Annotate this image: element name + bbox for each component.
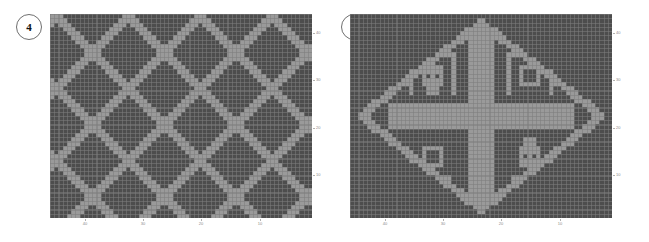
x-axis-tick-label: 30 [441,222,445,226]
y-axis-tick-label: 10 [616,173,620,177]
y-tick-mark [613,80,615,81]
heatmap-plot-5 [350,14,612,218]
y-axis-tick-label: 40 [616,31,620,35]
panel-badge-4: 4 [16,14,42,40]
y-tick-mark [313,175,315,176]
y-axis-tick-label: 30 [616,78,620,82]
x-axis-tick-label: 20 [499,222,503,226]
x-axis-tick-label: 20 [199,222,203,226]
y-axis-tick-label: 10 [316,173,320,177]
heatmap-plot-4 [50,14,312,218]
y-tick-mark [313,128,315,129]
y-tick-mark [613,128,615,129]
x-axis-tick-label: 10 [258,222,262,226]
heatmap-canvas-5 [350,14,612,218]
y-axis-tick-label: 40 [316,31,320,35]
y-axis-tick-label: 30 [316,78,320,82]
x-axis-tick-label: 40 [83,222,87,226]
x-axis-tick-label: 10 [558,222,562,226]
y-tick-mark [613,33,615,34]
y-tick-mark [313,33,315,34]
heatmap-canvas-4 [50,14,312,218]
x-axis-tick-label: 30 [141,222,145,226]
panel-5: 5 4030201040302010 [325,0,649,242]
y-axis-tick-label: 20 [616,126,620,130]
y-tick-mark [313,80,315,81]
y-axis-tick-label: 20 [316,126,320,130]
y-tick-mark [613,175,615,176]
panel-4: 4 4030201040302010 [0,0,324,242]
figure-container: 4 4030201040302010 5 4030201040302010 [0,0,649,242]
x-axis-tick-label: 40 [383,222,387,226]
